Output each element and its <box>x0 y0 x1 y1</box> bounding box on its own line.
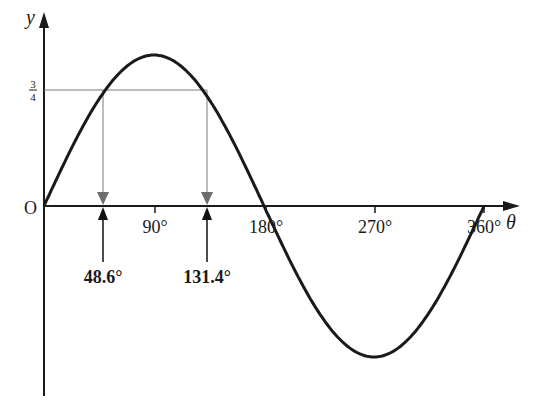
solution-label-2: 131.4° <box>183 267 231 287</box>
fraction-denominator: 4 <box>30 91 36 103</box>
down-arrow-icon <box>97 192 109 205</box>
y-axis-label: y <box>24 6 35 29</box>
down-arrow-icon <box>201 192 213 205</box>
tick-label-180: 180° <box>249 217 283 237</box>
tick-label-360: 360° <box>467 217 501 237</box>
tick-label-270: 270° <box>358 217 392 237</box>
tick-label-90: 90° <box>142 217 167 237</box>
fraction-numerator: 3 <box>30 78 36 90</box>
diagram-canvas: y 3 4 O 90° 180° 270° 360° θ 48.6° 131.4… <box>0 0 540 416</box>
x-axis-label: θ <box>506 211 516 233</box>
up-arrow-icon <box>202 207 212 220</box>
up-arrow-icon <box>98 207 108 220</box>
sine-diagram: y 3 4 O 90° 180° 270° 360° θ 48.6° 131.4… <box>0 0 540 416</box>
y-axis-arrow-icon <box>39 12 49 28</box>
origin-label: O <box>24 198 37 218</box>
solution-label-1: 48.6° <box>84 267 123 287</box>
x-axis-arrow-icon <box>503 201 520 211</box>
